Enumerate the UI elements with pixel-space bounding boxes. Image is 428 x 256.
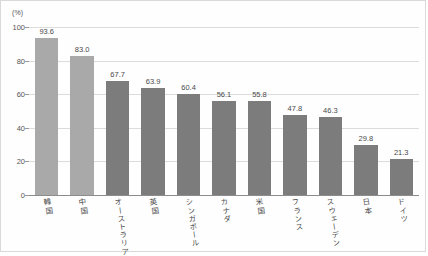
bar-group: 56.1 xyxy=(212,27,235,195)
bar-value-label: 29.8 xyxy=(358,134,373,143)
bar xyxy=(319,117,342,195)
bar-group: 67.7 xyxy=(106,27,129,195)
bar-value-label: 63.9 xyxy=(146,77,161,86)
bar xyxy=(141,88,164,195)
bar-group: 47.8 xyxy=(283,27,306,195)
bar-group: 21.3 xyxy=(390,27,413,195)
y-tick-mark xyxy=(25,195,29,196)
y-tick-label: 0 xyxy=(21,191,25,200)
bar xyxy=(212,101,235,195)
bar-group: 93.6 xyxy=(35,27,58,195)
bar-value-label: 67.7 xyxy=(110,70,125,79)
x-category-label: 英国 xyxy=(148,197,158,215)
bar-value-label: 47.8 xyxy=(288,104,303,113)
bar-group: 55.8 xyxy=(248,27,271,195)
x-category-label: 日本 xyxy=(361,197,371,215)
bar xyxy=(354,145,377,195)
bars: 93.683.067.763.960.456.155.847.846.329.8… xyxy=(29,27,419,195)
y-axis-unit-label: (%) xyxy=(12,9,23,16)
y-tick-label: 40 xyxy=(17,123,25,132)
bar xyxy=(390,159,413,195)
x-category-label: ドイツ xyxy=(396,197,407,223)
bar xyxy=(283,115,306,195)
bar-value-label: 46.3 xyxy=(323,106,338,115)
x-category-label: 米国 xyxy=(254,197,264,215)
y-tick-label: 100 xyxy=(12,23,25,32)
bar-value-label: 55.8 xyxy=(252,90,267,99)
bar-group: 60.4 xyxy=(177,27,200,195)
x-axis-category-labels: 韓国中国オーストラリア英国シンガポールカナダ米国フランススウェーデン日本ドイツ xyxy=(29,198,419,252)
bar xyxy=(106,81,129,195)
bar-value-label: 93.6 xyxy=(39,27,54,36)
plot-area: 020406080100 93.683.067.763.960.456.155.… xyxy=(29,27,419,195)
bar-value-label: 21.3 xyxy=(394,148,409,157)
x-category-label: シンガポール xyxy=(184,197,199,247)
bar xyxy=(70,56,93,195)
bar-value-label: 60.4 xyxy=(181,83,196,92)
bar-group: 29.8 xyxy=(354,27,377,195)
x-category-label: オーストラリア xyxy=(113,197,129,256)
x-category-label: フランス xyxy=(290,197,302,231)
bar-value-label: 83.0 xyxy=(75,45,90,54)
y-tick-label: 20 xyxy=(17,157,25,166)
x-category-label: 中国 xyxy=(77,197,87,215)
x-category-label: スウェーデン xyxy=(325,197,340,247)
bar-chart-figure: (%) 020406080100 93.683.067.763.960.456.… xyxy=(0,0,426,252)
bar-group: 63.9 xyxy=(141,27,164,195)
bar xyxy=(177,94,200,195)
x-axis-baseline xyxy=(29,195,419,196)
bar-group: 46.3 xyxy=(319,27,342,195)
bar xyxy=(35,38,58,195)
x-category-label: 韓国 xyxy=(42,197,52,215)
bar-group: 83.0 xyxy=(70,27,93,195)
bar-value-label: 56.1 xyxy=(217,90,232,99)
y-tick-label: 80 xyxy=(17,56,25,65)
y-tick-label: 60 xyxy=(17,90,25,99)
x-category-label: カナダ xyxy=(219,197,230,223)
bar xyxy=(248,101,271,195)
